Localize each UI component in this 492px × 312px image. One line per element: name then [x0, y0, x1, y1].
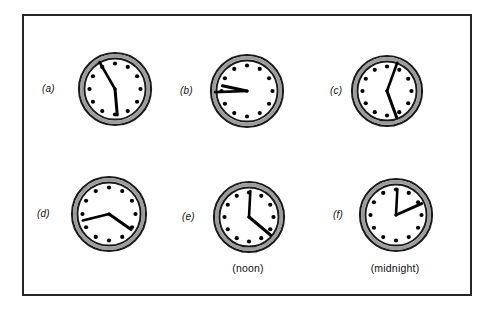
clock-a	[70, 44, 160, 134]
clock-caption-midnight: (midnight)	[345, 262, 445, 274]
clock-label-c: (c)	[330, 85, 342, 96]
figure-root: (a) (b) (c) (d) (e) (noon) (f) (midnight…	[0, 0, 492, 312]
clock-c	[343, 47, 431, 135]
clock-label-d: (d)	[37, 208, 50, 219]
clock-b	[202, 46, 292, 136]
clock-label-a: (a)	[42, 83, 55, 94]
clock-d	[63, 168, 155, 260]
clock-label-b: (b)	[180, 85, 193, 96]
clock-f	[351, 170, 441, 260]
clock-e	[205, 173, 293, 261]
clock-caption-noon: (noon)	[198, 262, 298, 274]
clock-label-f: (f)	[333, 209, 343, 220]
clock-label-e: (e)	[182, 211, 195, 222]
